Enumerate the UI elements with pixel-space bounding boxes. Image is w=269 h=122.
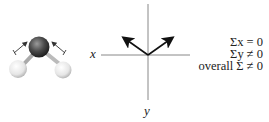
dipole-tail-cross-left xyxy=(13,50,16,55)
dipole-diagram: x y Σx = 0 Σy ≠ 0 overall Σ ≠ 0 xyxy=(0,0,269,122)
x-axis-label: x xyxy=(90,46,96,62)
dipole-arrow-left xyxy=(14,42,27,53)
outer-atom-left xyxy=(9,60,27,78)
central-atom xyxy=(29,37,50,58)
equation-overall: overall Σ ≠ 0 xyxy=(199,60,263,73)
axes xyxy=(101,4,190,100)
vector-up-left xyxy=(124,38,148,55)
molecule xyxy=(9,37,72,79)
outer-atom-right xyxy=(55,62,72,79)
y-axis-label: y xyxy=(144,103,150,119)
dipole-arrow-right xyxy=(52,42,65,53)
vector-up-right xyxy=(148,38,172,55)
dipole-tail-cross-right xyxy=(63,50,66,55)
